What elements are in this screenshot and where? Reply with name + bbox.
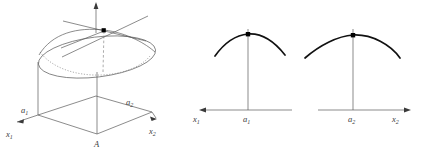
axis-x2-line: [152, 112, 156, 118]
panel-section-x1: x1 a1: [192, 29, 292, 125]
label-x2-section: x2: [391, 114, 399, 125]
label-A-3d: A: [93, 139, 100, 149]
label-a1-section: a1: [243, 114, 250, 125]
section-x2-curve: [305, 35, 400, 58]
label-a2-3d: a2: [126, 97, 133, 108]
dome-top-curve: [39, 29, 155, 55]
label-x2-3d: x2: [148, 126, 156, 137]
normal-arrow-head: [94, 2, 99, 9]
tangent-line-2: [62, 16, 148, 57]
section-x2-axis-arrowhead: [404, 108, 411, 113]
label-x1-section: x1: [192, 114, 200, 125]
figure-container: a1 a2 x1 x2 A x1 a1: [0, 0, 428, 156]
axis-x1-3d: [17, 115, 38, 123]
panel-section-x2: a2 x2: [305, 29, 411, 125]
section-x1-peak-marker: [246, 32, 250, 36]
axis-x2-3d: [150, 112, 157, 121]
label-a1-3d: a1: [21, 105, 28, 116]
base-plane-outline: [38, 96, 152, 134]
base-plane-parallelogram: [38, 96, 152, 134]
label-a2-section: a2: [348, 114, 355, 125]
figure-canvas: a1 a2 x1 x2 A x1 a1: [0, 0, 428, 156]
axis-x2-arrowhead: [150, 117, 157, 121]
label-x1-3d: x1: [5, 129, 13, 140]
panel-surface-3d: a1 a2 x1 x2 A: [5, 2, 158, 149]
section-x2-peak-marker: [351, 33, 355, 37]
summit-point-marker: [102, 28, 106, 32]
dome-hidden-arc: [40, 52, 150, 75]
tangent-line-3: [61, 31, 104, 48]
section-x1-curve: [215, 34, 285, 56]
section-x1-axis-arrowhead: [199, 108, 206, 113]
